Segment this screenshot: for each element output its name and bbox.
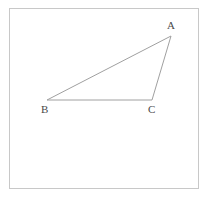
vertex-label-b: B — [41, 104, 48, 115]
triangle-drawing — [0, 0, 212, 202]
triangle-abc-path — [47, 36, 171, 100]
geometry-figure: A B C — [0, 0, 212, 202]
vertex-label-a: A — [167, 20, 175, 31]
vertex-label-c: C — [148, 104, 155, 115]
